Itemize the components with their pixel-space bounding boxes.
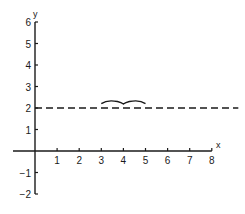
x-tick-label: 2 xyxy=(76,155,82,166)
y-tick-label: 6 xyxy=(25,17,31,28)
x-tick-label: 4 xyxy=(121,155,127,166)
x-tick-label: 8 xyxy=(209,155,215,166)
y-axis-label: y xyxy=(33,9,38,19)
x-tick-label: 3 xyxy=(99,155,105,166)
y-tick-label: 5 xyxy=(25,39,31,50)
y-tick-label: 3 xyxy=(25,82,31,93)
y-tick-label: −1 xyxy=(20,168,32,179)
y-tick-label: 2 xyxy=(25,103,31,114)
x-tick-label: 6 xyxy=(165,155,171,166)
y-tick-label: 4 xyxy=(25,60,31,71)
y-tick-label: −2 xyxy=(20,189,32,200)
y-tick-label: 1 xyxy=(25,125,31,136)
brace-icon xyxy=(101,101,145,104)
series xyxy=(35,101,238,108)
x-tick-label: 7 xyxy=(187,155,193,166)
x-tick-label: 1 xyxy=(54,155,60,166)
x-axis-label: x xyxy=(216,140,221,150)
chart: 12345678−2−1123456 x y xyxy=(0,0,245,214)
x-tick-label: 5 xyxy=(143,155,149,166)
